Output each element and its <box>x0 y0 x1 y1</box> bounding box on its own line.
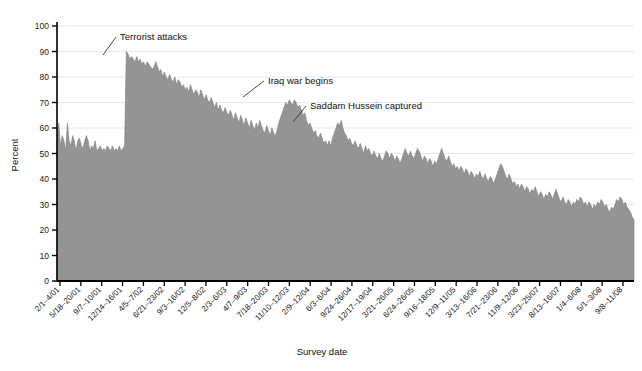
y-tick-label-30: 30 <box>40 200 50 210</box>
annotation-label-1: Iraq war begins <box>268 75 333 86</box>
annotation-label-2: Saddam Hussein captured <box>310 100 422 111</box>
y-tick-label-50: 50 <box>40 149 50 159</box>
y-tick-label-60: 60 <box>40 123 50 133</box>
y-tick-label-20: 20 <box>40 225 50 235</box>
x-axis-title: Survey date <box>297 346 348 357</box>
y-tick-label-70: 70 <box>40 98 50 108</box>
chart-canvas: 0102030405060708090100 2/1–4/015/18–20/0… <box>0 0 642 371</box>
approval-rating-chart: 0102030405060708090100 2/1–4/015/18–20/0… <box>0 0 642 371</box>
y-tick-label-10: 10 <box>40 251 50 261</box>
y-tick-label-100: 100 <box>35 21 49 31</box>
y-tick-label-90: 90 <box>40 47 50 57</box>
annotation-label-0: Terrorist attacks <box>120 31 187 42</box>
y-tick-label-80: 80 <box>40 72 50 82</box>
y-tick-label-0: 0 <box>44 276 49 286</box>
y-axis-title: Percent <box>9 138 20 171</box>
y-tick-label-40: 40 <box>40 174 50 184</box>
